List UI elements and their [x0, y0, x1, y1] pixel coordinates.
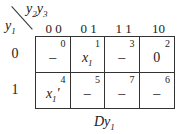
- cell-value: –: [105, 50, 139, 66]
- cell-value: 0: [140, 50, 175, 66]
- cell-value: x1: [71, 50, 105, 68]
- cell-index: 7: [130, 74, 135, 85]
- col-header-10: 10: [141, 21, 176, 37]
- cell-value: –: [36, 50, 70, 66]
- cell-6: 6 –: [140, 73, 175, 109]
- column-variable-label: y2y3: [26, 1, 47, 19]
- cell-index: 5: [95, 74, 100, 85]
- cell-value: –: [71, 86, 105, 102]
- row-header-0: 0: [8, 46, 22, 62]
- cell-1: 1 x1: [71, 37, 106, 73]
- cell-5: 5 –: [71, 73, 106, 109]
- cell-value: –: [140, 86, 175, 102]
- cell-0: 0 –: [36, 37, 71, 73]
- cell-7: 7 –: [105, 73, 140, 109]
- karnaugh-grid: 0 – 1 x1 3 – 2 0 4 x1' 5 – 7 – 6 –: [35, 36, 175, 109]
- row-variable-label: y1: [5, 18, 16, 36]
- cell-index: 6: [165, 74, 170, 85]
- cell-value: –: [105, 86, 139, 102]
- col-header-00: 0 0: [36, 21, 71, 37]
- cell-2: 2 0: [140, 37, 175, 73]
- cell-index: 4: [61, 74, 66, 85]
- cell-4: 4 x1': [36, 73, 71, 109]
- cell-index: 0: [61, 38, 66, 49]
- row-header-1: 1: [8, 82, 22, 98]
- cell-3: 3 –: [105, 37, 140, 73]
- map-caption: Dy1: [94, 114, 115, 132]
- col-header-11: 1 1: [106, 21, 141, 37]
- cell-value: x1': [36, 86, 70, 104]
- cell-index: 3: [130, 38, 135, 49]
- cell-index: 1: [95, 38, 100, 49]
- col-header-01: 0 1: [71, 21, 106, 37]
- cell-index: 2: [165, 38, 170, 49]
